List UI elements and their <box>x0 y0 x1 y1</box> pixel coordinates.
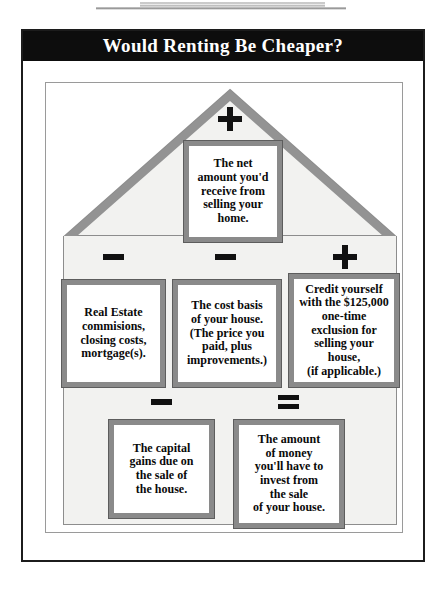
box-net-amount-text: The net amount you'd receive from sellin… <box>195 157 270 225</box>
box-credit-text: Credit yourself with the $125,000 one-ti… <box>297 283 391 379</box>
box-commissions-text: Real Estate commisions, closing costs, m… <box>79 306 149 361</box>
minus-operator-capital-gains <box>151 399 172 405</box>
plus-operator-roof <box>218 107 242 131</box>
box-cost-basis: The cost basis of your house. (The price… <box>173 280 281 387</box>
page-title: Would Renting Be Cheaper? <box>103 35 343 57</box>
box-commissions: Real Estate commisions, closing costs, m… <box>62 280 165 387</box>
title-bar: Would Renting Be Cheaper? <box>23 31 423 61</box>
equals-operator-invest <box>278 395 299 409</box>
minus-operator-commissions <box>103 254 124 260</box>
scan-artifact-line-secondary <box>96 7 346 10</box>
box-capital-gains: The capital gains due on the sale of the… <box>109 420 214 518</box>
box-credit: Credit yourself with the $125,000 one-ti… <box>289 274 399 387</box>
box-capital-gains-text: The capital gains due on the sale of the… <box>127 442 195 497</box>
poster-frame: Would Renting Be Cheaper? The net amount… <box>21 29 425 562</box>
box-invest-text: The amount of money you'll have to inves… <box>251 433 327 515</box>
plus-operator-credit <box>333 245 357 269</box>
box-net-amount: The net amount you'd receive from sellin… <box>184 141 282 242</box>
minus-operator-cost-basis <box>215 254 236 260</box>
box-cost-basis-text: The cost basis of your house. (The price… <box>185 299 269 367</box>
box-invest: The amount of money you'll have to inves… <box>234 420 344 528</box>
